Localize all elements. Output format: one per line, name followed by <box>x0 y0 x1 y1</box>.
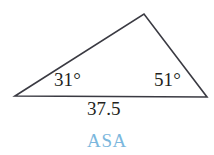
angle-left-label: 31° <box>54 70 81 89</box>
congruence-criterion-label: ASA <box>0 131 214 150</box>
triangle-figure: 31° 51° 37.5 ASA <box>0 0 214 155</box>
angle-right-label: 51° <box>154 70 181 89</box>
base-length-label: 37.5 <box>87 99 121 118</box>
